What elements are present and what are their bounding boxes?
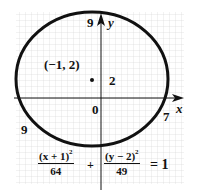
center-point: [90, 78, 94, 82]
x-axis-label: x: [176, 102, 183, 115]
label-left-bottom: 9: [21, 123, 28, 136]
equation-term2: (y − 2)2 49: [104, 149, 140, 177]
term2-denominator: 49: [104, 164, 140, 177]
label-y-top: 9: [87, 16, 94, 29]
term1-numerator: (x + 1): [39, 150, 69, 162]
equation-rhs: = 1: [150, 158, 168, 172]
equation-plus: +: [87, 159, 94, 171]
label-center-y: 2: [109, 74, 116, 87]
ellipse-graph: [0, 0, 199, 190]
center-label: (−1, 2): [44, 58, 80, 71]
label-x-right: 7: [163, 110, 170, 123]
y-axis-label: y: [108, 16, 114, 29]
term2-numerator: (y − 2): [105, 150, 135, 162]
equation-term1: (x + 1)2 64: [38, 149, 74, 177]
label-origin: 0: [92, 103, 99, 116]
term2-exponent: 2: [135, 148, 139, 156]
term1-denominator: 64: [38, 164, 74, 177]
term1-exponent: 2: [69, 148, 73, 156]
